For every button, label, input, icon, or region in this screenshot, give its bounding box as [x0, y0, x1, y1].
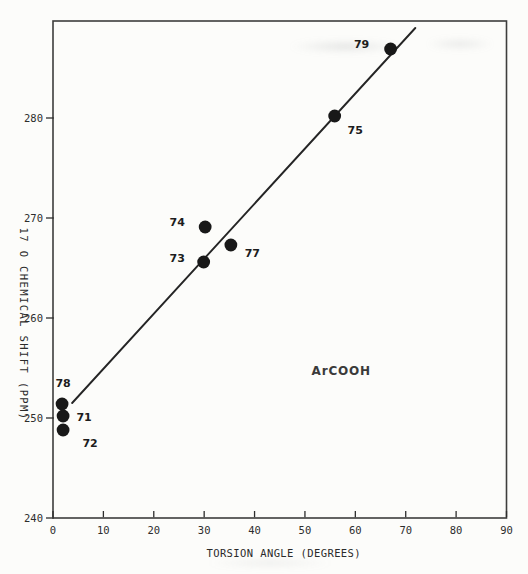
scatter-plot-canvas: 0102030405060708090240250260270280717273…: [0, 0, 528, 574]
y-axis-title: 17 O CHEMICAL SHIFT (PPM): [18, 227, 30, 420]
data-point-75: [328, 110, 341, 123]
y-tick-label: 240: [24, 512, 43, 524]
x-tick-label: 70: [399, 524, 412, 536]
annotation-arcooh: ArCOOH: [312, 364, 371, 378]
y-tick-label: 280: [24, 112, 43, 124]
data-point-79: [384, 43, 397, 56]
point-label-74: 74: [170, 216, 186, 229]
point-label-72: 72: [82, 437, 97, 450]
point-label-77: 77: [245, 247, 260, 260]
point-label-71: 71: [76, 411, 91, 424]
point-label-75: 75: [348, 124, 363, 137]
x-axis-title: TORSION ANGLE (DEGREES): [206, 547, 361, 559]
data-point-77: [224, 239, 237, 252]
x-tick-label: 20: [147, 524, 160, 536]
x-tick-label: 80: [450, 524, 463, 536]
data-point-78: [56, 398, 69, 411]
y-tick-label: 270: [24, 212, 43, 224]
data-point-73: [197, 256, 210, 269]
data-point-72: [57, 424, 70, 437]
point-label-79: 79: [354, 38, 369, 51]
point-label-78: 78: [55, 377, 70, 390]
x-tick-label: 0: [50, 524, 56, 536]
plot-frame: [53, 21, 507, 518]
x-tick-label: 60: [349, 524, 362, 536]
data-point-74: [199, 221, 212, 234]
x-tick-label: 90: [500, 524, 513, 536]
figure-scatter-plot: 0102030405060708090240250260270280717273…: [0, 0, 528, 574]
data-point-71: [57, 410, 70, 423]
x-tick-label: 10: [97, 524, 110, 536]
x-tick-label: 40: [248, 524, 261, 536]
x-tick-label: 50: [299, 524, 312, 536]
fit-line: [72, 28, 415, 403]
point-label-73: 73: [170, 252, 185, 265]
x-tick-label: 30: [198, 524, 211, 536]
